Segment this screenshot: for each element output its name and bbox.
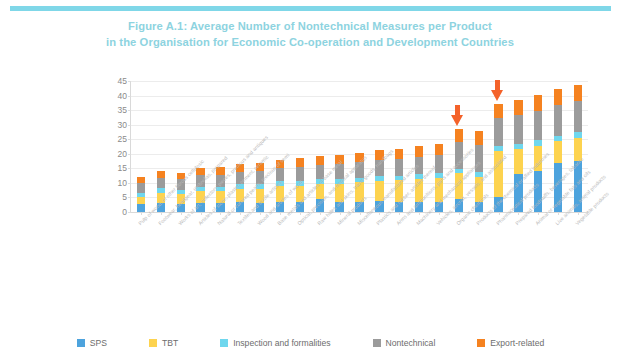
bar-segment-export-related: [514, 100, 522, 115]
bar-segment-nontechnical: [157, 178, 165, 188]
x-axis-tick-mark: [181, 212, 182, 215]
bar-segment-export-related: [534, 95, 542, 111]
x-axis-tick-mark: [240, 212, 241, 215]
y-axis-tick-label: 35: [118, 105, 127, 115]
legend-item[interactable]: TBT: [149, 338, 178, 348]
x-axis-tick-mark: [538, 212, 539, 215]
bar-segment-export-related: [157, 171, 165, 178]
x-axis-tick-mark: [518, 212, 519, 215]
x-axis-tick-mark: [578, 212, 579, 215]
legend-swatch-icon: [373, 339, 381, 347]
bar-segment-export-related: [296, 158, 304, 167]
y-axis-tick-mark: [128, 212, 131, 213]
arrow-head: [491, 90, 503, 101]
x-axis-tick-mark: [300, 212, 301, 215]
legend-item[interactable]: Inspection and formalities: [220, 338, 330, 348]
bar-segment-export-related: [475, 131, 483, 145]
x-axis-tick-mark: [260, 212, 261, 215]
bar-segment-nontechnical: [554, 105, 562, 135]
x-axis-tick-mark: [340, 212, 341, 215]
bar-stack[interactable]: [137, 177, 145, 212]
bar-segment-tbt: [137, 197, 145, 205]
legend-label: Inspection and formalities: [233, 338, 330, 348]
x-axis-tick-mark: [201, 212, 202, 215]
bar-segment-nontechnical: [137, 183, 145, 193]
bar-segment-export-related: [554, 89, 562, 105]
x-axis-tick-mark: [379, 212, 380, 215]
bar-segment-nontechnical: [574, 101, 582, 132]
x-axis-tick-mark: [479, 212, 480, 215]
bar-segment-nontechnical: [534, 111, 542, 141]
y-axis-tick-label: 40: [118, 91, 127, 101]
bar-segment-export-related: [574, 85, 582, 102]
page-title: Figure A.1: Average Number of Nontechnic…: [60, 18, 560, 50]
bar-segment-export-related: [455, 129, 463, 142]
legend-item[interactable]: SPS: [77, 338, 107, 348]
legend-item[interactable]: Export-related: [477, 338, 544, 348]
figure-title-line2: in the Organisation for Economic Co-oper…: [60, 34, 560, 50]
bar-segment-sps: [137, 204, 145, 212]
legend-item[interactable]: Nontechnical: [373, 338, 436, 348]
plot-area: 051015202530354045: [130, 81, 588, 213]
bar-series-group: [131, 81, 588, 212]
x-axis-tick-mark: [399, 212, 400, 215]
legend-swatch-icon: [477, 339, 485, 347]
x-axis-tick-mark: [161, 212, 162, 215]
bar-segment-tbt: [554, 141, 562, 163]
legend-swatch-icon: [77, 339, 85, 347]
bar-segment-export-related: [395, 149, 403, 159]
y-axis-tick-label: 10: [118, 178, 127, 188]
x-axis-tick-mark: [439, 212, 440, 215]
x-axis-tick-mark: [280, 212, 281, 215]
arrow-head: [451, 115, 463, 126]
x-axis-labels: Pulp of wood, of other fibrous cellulosi…: [0, 222, 621, 322]
bar-segment-tbt: [514, 149, 522, 174]
bar-segment-export-related: [415, 146, 423, 156]
legend-label: Nontechnical: [386, 338, 436, 348]
bar-segment-export-related: [435, 144, 443, 155]
top-decorative-band: [10, 6, 611, 11]
legend-label: SPS: [90, 338, 107, 348]
arrow-prepared-foodstuffs: [491, 80, 504, 102]
x-axis-tick-mark: [459, 212, 460, 215]
chart-legend: SPSTBTInspection and formalitiesNontechn…: [0, 333, 621, 353]
x-axis-tick-mark: [220, 212, 221, 215]
legend-swatch-icon: [149, 339, 157, 347]
bar-stack[interactable]: [574, 85, 582, 213]
y-axis-tick-label: 25: [118, 134, 127, 144]
legend-label: Export-related: [490, 338, 544, 348]
x-axis-tick-mark: [360, 212, 361, 215]
y-axis-tick-label: 45: [118, 76, 127, 86]
x-axis-tick-mark: [558, 212, 559, 215]
y-axis-tick-label: 15: [118, 163, 127, 173]
y-axis-tick-label: 20: [118, 149, 127, 159]
bar-segment-nontechnical: [435, 155, 443, 173]
legend-swatch-icon: [220, 339, 228, 347]
bar-segment-nontechnical: [514, 115, 522, 144]
y-axis-tick-label: 30: [118, 120, 127, 130]
x-axis-tick-mark: [499, 212, 500, 215]
x-axis-tick-mark: [141, 212, 142, 215]
x-axis-tick-mark: [320, 212, 321, 215]
y-axis-tick-label: 0: [122, 207, 127, 217]
legend-label: TBT: [162, 338, 178, 348]
bar-segment-export-related: [494, 104, 502, 119]
bar-segment-nontechnical: [494, 118, 502, 146]
x-axis-tick-mark: [419, 212, 420, 215]
figure-title-line1: Figure A.1: Average Number of Nontechnic…: [60, 18, 560, 34]
arrow-pharmaceutical-products: [451, 105, 464, 127]
bar-segment-export-related: [316, 156, 324, 165]
y-axis-tick-label: 5: [122, 192, 127, 202]
bar-segment-nontechnical: [395, 159, 403, 176]
